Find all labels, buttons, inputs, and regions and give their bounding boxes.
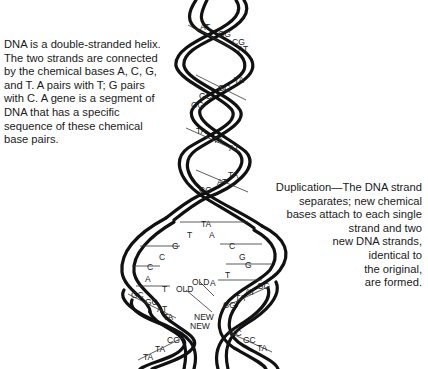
fork-right-base: C [229, 241, 235, 251]
lower-right-pair: AT [245, 287, 255, 297]
new-strand-tag: NEW [190, 321, 210, 331]
lower-left-pair: GC [131, 290, 144, 300]
fork-left-base: G [172, 241, 179, 251]
old-strand-tag: OLD [176, 284, 193, 294]
lower-left-pair: TA [155, 344, 166, 354]
fork-left-base: C [147, 262, 153, 272]
base-pair-label: TA [234, 75, 245, 85]
fork-right-base: G [245, 260, 252, 270]
lower-right-pair: GC [257, 281, 270, 291]
base-pair-label: TA [201, 219, 212, 229]
lower-left-pair: GC [145, 297, 158, 307]
old-strand-tag: OLD [192, 277, 209, 287]
lower-right-pair: TA [235, 293, 246, 303]
base-pair-label: TA [196, 126, 207, 136]
fork-right-base: T [225, 270, 230, 280]
base-pair-label: CG [218, 83, 231, 93]
lower-right-pair: TA [257, 343, 268, 353]
base-pair-label: CG [199, 185, 212, 195]
lower-right-pair: CG [223, 300, 236, 310]
fork-right-base: A [210, 278, 216, 288]
lower-left-pair: CG [167, 335, 180, 345]
base-pair-label: AT [238, 44, 248, 54]
fork-left-base: A [145, 274, 151, 284]
fork-left-base: T [187, 230, 192, 240]
base-pair-label: AT [217, 177, 227, 187]
base-pair-label: AT [200, 22, 210, 32]
lower-right-pair: GC [229, 328, 242, 338]
fork-left-base: T [162, 284, 167, 294]
lower-left-pair: TA [163, 312, 174, 322]
lower-right-pair: GC [243, 335, 256, 345]
dna-helix-illustration: AT CG CG AT TA CG GC CG TA TA AT TA AT C… [0, 0, 428, 369]
base-pair-label: TA [228, 170, 239, 180]
base-pair-label: CG [191, 100, 204, 110]
base-pair-label: TA [213, 135, 224, 145]
base-pair-label: CG [218, 29, 231, 39]
fork-left-base: C [159, 252, 165, 262]
base-pair-label: AT [229, 143, 239, 153]
lower-left-pair: TA [143, 352, 154, 362]
fork-right-base: A [209, 230, 215, 240]
